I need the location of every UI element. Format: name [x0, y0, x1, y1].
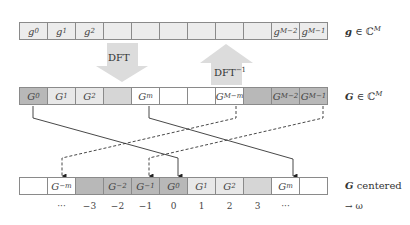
Gc-cell-minus-3 [75, 177, 104, 195]
Gc-cell-3 [243, 177, 272, 195]
axis-tick: 2 [215, 201, 244, 211]
omega-axis-label: → ω [345, 201, 363, 211]
axis-tick: 3 [243, 201, 272, 211]
centered-array-G: G−m G−2 G−1 G0 G1 G2 Gm [19, 177, 328, 195]
axis-tick: ··· [271, 201, 300, 211]
Gc-cell-minus-1: G−1 [131, 177, 160, 195]
Gc-cell-10 [299, 177, 328, 195]
Gc-cell-minus-m: G−m [47, 177, 76, 195]
axis-tick: −1 [131, 201, 160, 211]
centered-row-label: G centered [345, 180, 402, 191]
axis-tick: −2 [103, 201, 132, 211]
Gc-cell-2: G2 [215, 177, 244, 195]
Gc-cell-0 [19, 177, 48, 195]
axis-tick: −3 [75, 201, 104, 211]
axis-tick: 0 [159, 201, 188, 211]
Gc-cell-minus-2: G−2 [103, 177, 132, 195]
Gc-cell-0-center: G0 [159, 177, 188, 195]
Gc-cell-1: G1 [187, 177, 216, 195]
Gc-cell-m: Gm [271, 177, 300, 195]
axis-tick: ··· [47, 201, 76, 211]
axis-tick: 1 [187, 201, 216, 211]
connector-G0 [33, 106, 178, 176]
